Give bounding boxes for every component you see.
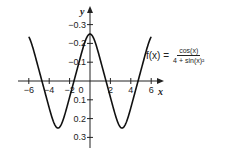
formula-fraction: cos(x) 4 + sin(x)² [173,46,204,65]
x-tick-label: −6 [24,85,34,95]
x-tick-label: 4 [128,85,133,95]
formula-numerator: cos(x) [177,46,200,56]
x-axis-label: x [157,86,163,97]
x-tick-label: 0 [78,85,83,95]
y-axis-label: y [79,6,85,17]
y-tick-label: 0.1 [73,95,86,105]
y-tick-label: 0.2 [73,114,86,124]
axes [18,6,164,148]
y-tick-label: −0.1 [68,57,86,67]
x-axis-arrow-icon [157,78,164,84]
y-tick-label: 0.3 [73,132,86,142]
x-tick-label: 6 [149,85,154,95]
function-formula: f(x) = cos(x) 4 + sin(x)² [146,46,204,65]
formula-denominator: 4 + sin(x)² [173,56,204,65]
y-tick-label: −0.3 [68,20,86,30]
y-axis-arrow-icon [87,6,93,13]
chart-canvas: −6−4−20246 0.30.20.1−0.1−0.2−0.3 x y [0,0,240,158]
formula-name: f(x) = [146,50,169,61]
